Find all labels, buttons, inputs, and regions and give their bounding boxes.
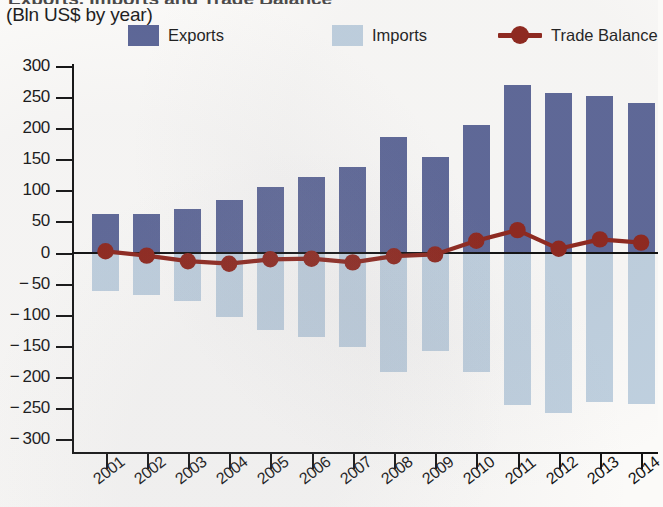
trade-balance-point <box>427 246 443 262</box>
trade-balance-point <box>509 222 525 238</box>
trade-balance-point <box>468 233 484 249</box>
trade-balance-point <box>139 247 155 263</box>
trade-balance-point <box>633 234 649 250</box>
trade-balance-point <box>386 248 402 264</box>
trade-balance-point <box>551 241 567 257</box>
trade-balance-point <box>262 251 278 267</box>
trade-balance-point <box>592 231 608 247</box>
trade-balance-point <box>303 251 319 267</box>
trade-balance-point <box>97 243 113 259</box>
trade-balance-point <box>345 254 361 270</box>
trade-balance-point <box>221 256 237 272</box>
trade-balance-point <box>180 253 196 269</box>
